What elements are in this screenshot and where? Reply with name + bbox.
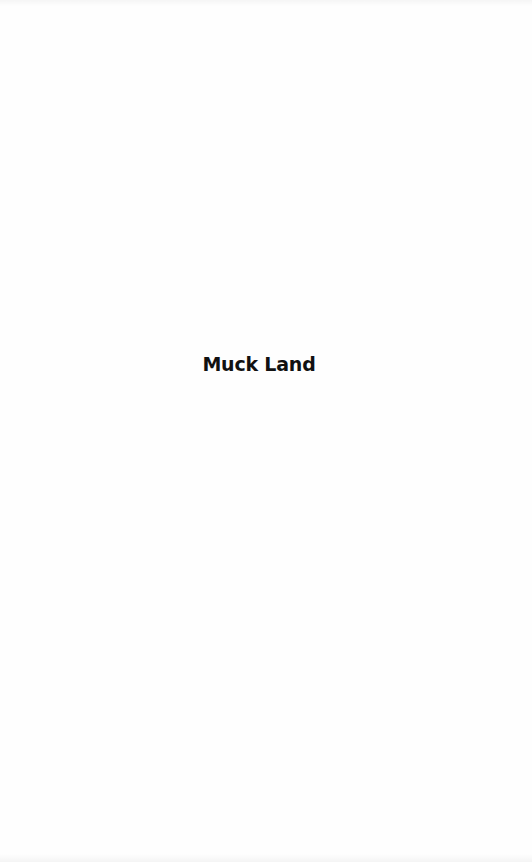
half-title: Muck Land: [0, 350, 518, 378]
book-page: Muck Land: [0, 0, 532, 862]
scan-artifact-bottom: [0, 854, 532, 862]
scan-artifact-top: [0, 0, 532, 6]
